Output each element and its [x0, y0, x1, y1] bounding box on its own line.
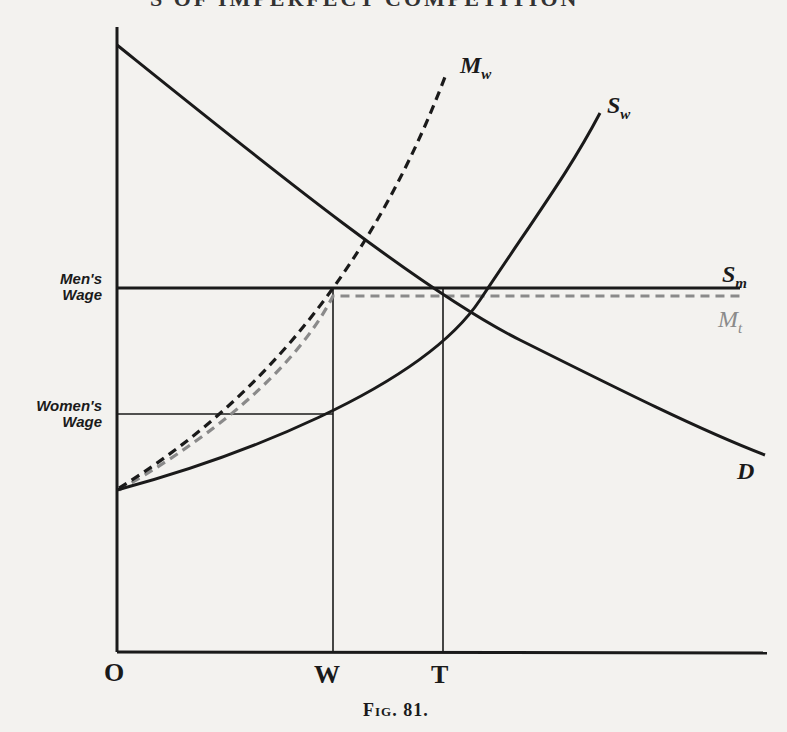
mens-wage-label: Men's Wage	[2, 271, 102, 303]
label-Mw: Mw	[460, 52, 491, 83]
x-tick-T: T	[431, 660, 448, 690]
x-axis	[117, 652, 767, 653]
womens-wage-label: Women's Wage	[2, 398, 102, 430]
diagram-canvas	[0, 0, 787, 732]
guide-lines	[117, 288, 443, 652]
curve-Mw	[119, 77, 445, 488]
figure-caption: FIG. 81.	[363, 700, 429, 721]
label-D: D	[737, 458, 754, 485]
origin-label: O	[104, 658, 124, 688]
x-tick-W: W	[314, 660, 340, 690]
label-Mt: Mt	[718, 306, 742, 337]
curve-D	[117, 45, 765, 455]
curve-Sw	[117, 113, 600, 490]
label-Sm: Sm	[722, 261, 747, 292]
label-Sw: Sw	[607, 92, 630, 123]
